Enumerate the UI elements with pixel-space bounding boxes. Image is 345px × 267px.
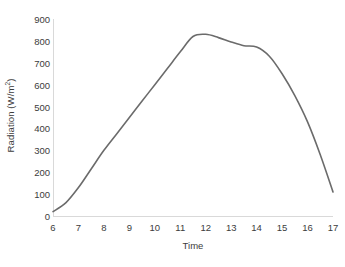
x-axis-title: Time [53,240,333,251]
y-axis-title-superscript: 2 [4,81,11,85]
y-tick-label: 400 [20,122,50,135]
plot-area [53,19,333,217]
x-tick-label: 9 [117,221,141,234]
x-tick-label: 7 [66,221,90,234]
x-tick-label: 13 [219,221,243,234]
y-tick-label: 100 [20,188,50,201]
x-tick-label: 10 [143,221,167,234]
series-radiation-line [53,34,333,211]
y-tick-label: 200 [20,166,50,179]
radiation-time-line-chart: Radiation (W/m2) 01002003004005006007008… [0,0,345,267]
x-tick-label: 11 [168,221,192,234]
x-tick-label: 14 [245,221,269,234]
y-tick-label: 500 [20,100,50,113]
x-tick-label: 17 [321,221,345,234]
y-tick-label: 900 [20,13,50,26]
x-tick-label: 6 [41,221,65,234]
x-tick-label: 16 [296,221,320,234]
x-axis-tick-labels: 67891011121314151617 [53,221,338,236]
y-tick-label: 700 [20,56,50,69]
y-tick-label: 300 [20,144,50,157]
y-axis-tick-labels: 0100200300400500600700800900 [20,12,50,219]
y-tick-label: 600 [20,78,50,91]
y-tick-label: 800 [20,34,50,47]
x-tick-label: 12 [194,221,218,234]
x-tick-label: 8 [92,221,116,234]
series-radiation [53,19,333,217]
x-tick-label: 15 [270,221,294,234]
y-axis-title: Radiation (W/m2) [0,0,22,230]
y-axis-title-label: Radiation (W/m2) [6,78,17,152]
